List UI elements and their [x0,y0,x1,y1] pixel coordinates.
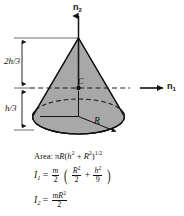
n2-label-subscript: 2 [79,7,82,13]
i1-first-term-fraction: R2 2 [72,166,82,185]
i1-second-term-numerator-exponent: 2 [98,165,101,171]
inertia-i2-equation: I2 = mR2 2 [34,191,68,210]
i1-coefficient-denominator: 2 [52,176,60,184]
area-outer-exponent: 1/2 [95,150,103,156]
i2-numerator-exponent: 2 [63,190,66,196]
dimension-label-upper-text: 2h/3 [4,56,20,66]
area-formula: Area: πR(h2 + R2)1/2 [34,150,102,161]
n1-label-subscript: 1 [173,86,176,92]
i1-second-term-denominator: 9 [93,176,102,184]
dimension-label-lower: h/3 [5,104,17,113]
i1-equals-sign: = [43,170,48,180]
i1-first-term-numerator-exponent: 2 [78,165,81,171]
centroid-point [76,86,80,90]
n1-axis-label: n1 [167,82,176,92]
i2-equals-sign: = [43,195,48,205]
dimension-label-upper: 2h/3 [4,57,20,66]
cone-mass-properties-figure: n2 n1 2h/3 h/3 C R Area: πR(h2 + R2)1/2 … [0,0,184,216]
centroid-label: C [78,77,84,86]
inertia-i1-equation: I1 = m 2 ( R2 2 + h2 9 ) [34,166,111,185]
area-h-exponent: 2 [72,150,75,156]
n2-axis-label: n2 [73,3,82,13]
i2-fraction: mR2 2 [52,191,67,210]
i1-plus-sign: + [85,170,90,180]
i1-open-paren: ( [64,167,68,184]
i2-denominator: 2 [52,201,67,209]
dimension-label-lower-text: h/3 [5,103,17,113]
area-prefix-text: Area: [34,151,53,161]
i1-coefficient-fraction: m 2 [52,167,60,185]
i2-subscript: 2 [37,199,40,206]
i1-symbol: I1 [34,170,40,180]
i1-subscript: 1 [37,174,40,181]
i1-first-term-denominator: 2 [72,176,82,184]
i1-close-paren: ) [107,167,111,184]
radius-label: R [94,117,100,127]
i2-symbol: I2 [34,195,40,205]
i1-second-term-fraction: h2 9 [93,166,102,185]
area-plus-sign: + [77,151,82,161]
